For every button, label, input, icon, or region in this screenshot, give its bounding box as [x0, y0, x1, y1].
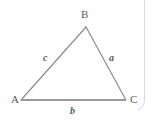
triangle-shape: [21, 27, 126, 100]
triangle-svg: [0, 0, 151, 123]
side-label-a: a: [109, 53, 114, 63]
side-label-c: c: [43, 53, 47, 63]
page-edge-line: [138, 0, 145, 110]
triangle-side-a-line: [86, 27, 126, 100]
page-edge-group: [138, 0, 145, 110]
vertex-label-a: A: [11, 94, 19, 105]
vertex-label-b: B: [81, 9, 88, 20]
triangle-side-c-line: [21, 27, 86, 100]
vertex-label-c: C: [130, 94, 137, 105]
side-label-b: b: [70, 106, 75, 116]
triangle-diagram-canvas: B A C c a b: [0, 0, 151, 123]
